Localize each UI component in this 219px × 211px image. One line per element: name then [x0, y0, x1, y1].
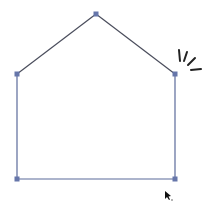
roof-edge-left[interactable] [17, 14, 96, 74]
mouse-cursor-icon [165, 191, 173, 201]
drawing-canvas[interactable] [0, 0, 219, 211]
vertex-handle-bottom-right[interactable] [173, 177, 178, 182]
vertex-handle-top-left[interactable] [15, 72, 20, 77]
burst-emphasis-icon [179, 50, 201, 70]
house-shape-svg [0, 0, 219, 211]
vertex-handle-top-right[interactable] [173, 72, 178, 77]
vertex-handle-bottom-left[interactable] [15, 177, 20, 182]
vertex-handle-apex[interactable] [94, 12, 99, 17]
roof-edge-right[interactable] [96, 14, 175, 74]
